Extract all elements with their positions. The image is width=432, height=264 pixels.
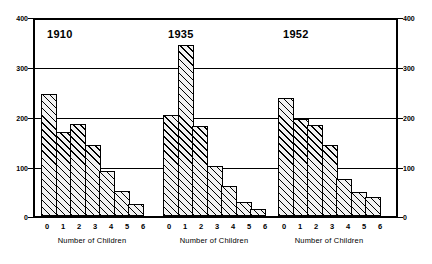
x-tick-1952-4: 4 xyxy=(340,221,356,232)
y-axis-left-tick-300: 300 xyxy=(2,65,28,72)
x-axis-title-1910: Number of Children xyxy=(33,236,151,245)
y-axis-right-tick-400: 400 xyxy=(403,15,415,22)
y-axis-right-tick-100: 100 xyxy=(403,165,415,172)
bar-chart: 400 300 200 100 0 400 300 200 100 0 1910… xyxy=(0,0,432,264)
y-axis-right-tick-300: 300 xyxy=(403,65,415,72)
x-tick-1935-2: 2 xyxy=(193,221,209,232)
y-axis-left-tick-0: 0 xyxy=(2,214,28,221)
x-axis-title-1952: Number of Children xyxy=(270,236,388,245)
y-axis-left-tick-200: 200 xyxy=(2,115,28,122)
bar-1935-6 xyxy=(250,209,266,216)
x-tick-1935-0: 0 xyxy=(161,221,177,232)
x-tick-1952-6: 6 xyxy=(372,221,388,232)
x-tick-1910-2: 2 xyxy=(71,221,87,232)
x-tick-1910-6: 6 xyxy=(135,221,151,232)
y-axis-right-tickmark-300 xyxy=(398,68,403,69)
x-tick-1935-3: 3 xyxy=(209,221,225,232)
x-tick-1952-5: 5 xyxy=(356,221,372,232)
x-tick-1910-0: 0 xyxy=(39,221,55,232)
x-tick-1935-6: 6 xyxy=(257,221,273,232)
bar-group-1952-bars xyxy=(278,20,381,216)
y-axis-left-tick-100: 100 xyxy=(2,165,28,172)
bar-1910-6 xyxy=(128,204,144,216)
x-tick-1952-2: 2 xyxy=(308,221,324,232)
x-tick-1935-1: 1 xyxy=(177,221,193,232)
x-tick-1935-4: 4 xyxy=(225,221,241,232)
bar-group-1935-bars xyxy=(163,20,266,216)
x-tick-1952-0: 0 xyxy=(276,221,292,232)
y-axis-right-tickmark-400 xyxy=(398,18,403,19)
y-axis-right-tickmark-0 xyxy=(398,217,403,218)
bar-group-1952 xyxy=(278,20,390,216)
x-tick-1910-5: 5 xyxy=(119,221,135,232)
x-tick-1952-1: 1 xyxy=(292,221,308,232)
y-axis-right-tick-200: 200 xyxy=(403,115,415,122)
y-axis-right-tickmark-100 xyxy=(398,168,403,169)
x-tick-1935-5: 5 xyxy=(241,221,257,232)
y-axis-right-tickmark-200 xyxy=(398,118,403,119)
x-tick-1910-4: 4 xyxy=(103,221,119,232)
bar-1952-6 xyxy=(365,197,381,216)
y-axis-left-tick-400: 400 xyxy=(2,15,28,22)
bar-group-1910 xyxy=(41,20,153,216)
y-axis-right-tick-0: 0 xyxy=(403,214,407,221)
x-tick-1910-1: 1 xyxy=(55,221,71,232)
x-axis-category-labels: 0 1 2 3 4 5 6 0 1 2 3 4 5 6 0 1 2 3 4 5 … xyxy=(0,221,432,232)
bar-group-1910-bars xyxy=(41,20,144,216)
x-tick-1910-3: 3 xyxy=(87,221,103,232)
x-tick-1952-3: 3 xyxy=(324,221,340,232)
plot-area: 1910 1935 1952 xyxy=(33,18,398,218)
bar-group-1935 xyxy=(163,20,275,216)
x-axis-title-1935: Number of Children xyxy=(155,236,273,245)
